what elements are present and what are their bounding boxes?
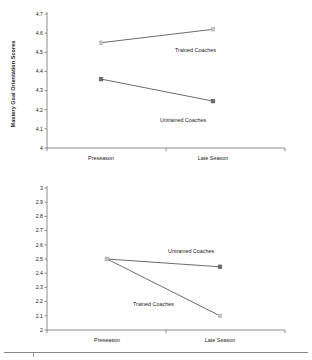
mastery-x-tick-late-season: Late Season: [173, 155, 253, 161]
mastery-y-tick-4.6: 4.6: [15, 30, 43, 36]
ego-y-tick-2.2: 2.2: [15, 298, 43, 304]
ego-x-tick-preseason: Preseason: [67, 337, 147, 343]
ego-chart-panel: Ego Goal Orientation Scores: [0, 180, 312, 360]
ego-y-tick-2.5: 2.5: [15, 256, 43, 262]
ego-y-tick-2.8: 2.8: [15, 213, 43, 219]
ego-y-tick-3: 3: [15, 185, 43, 191]
mastery-y-tick-4.7: 4.7: [15, 11, 43, 17]
ego-series-label-untrained: Untrained Coaches: [168, 248, 214, 254]
mastery-y-tick-4.4: 4.4: [15, 68, 43, 74]
ego-y-tick-2.6: 2.6: [15, 242, 43, 248]
mastery-chart-panel: Mastery Goal Orientation Scores: [0, 0, 312, 180]
mastery-x-tick-preseason: Preseason: [61, 155, 141, 161]
ego-y-tick-2.3: 2.3: [15, 284, 43, 290]
ego-y-tick-2.4: 2.4: [15, 270, 43, 276]
mastery-series-label-trained: Trained Coaches: [175, 47, 216, 53]
ego-y-tick-2.1: 2.1: [15, 313, 43, 319]
mastery-series-label-untrained: Untrained Coaches: [160, 117, 206, 123]
ego-y-tick-2: 2: [15, 327, 43, 333]
mastery-y-tick-4.5: 4.5: [15, 49, 43, 55]
ego-x-tick-late-season: Late Season: [180, 337, 260, 343]
mastery-y-tick-4.2: 4.2: [15, 107, 43, 113]
page-footer-tick: [33, 353, 34, 357]
ego-series-label-trained: Trained Coaches: [133, 301, 174, 307]
ego-y-tick-2.9: 2.9: [15, 199, 43, 205]
mastery-plot-area: [0, 0, 312, 180]
mastery-y-tick-4.1: 4.1: [15, 126, 43, 132]
page-footer-rule: [4, 352, 308, 353]
ego-plot-area: [0, 180, 312, 360]
ego-y-tick-2.7: 2.7: [15, 227, 43, 233]
mastery-y-tick-4.3: 4.3: [15, 87, 43, 93]
mastery-y-tick-4: 4: [15, 145, 43, 151]
